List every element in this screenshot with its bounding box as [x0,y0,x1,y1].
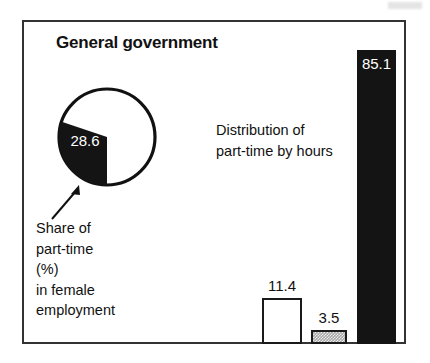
pie-annotation-line-3: (%) [36,259,115,280]
bar-value-label-3: 85.1 [357,55,396,72]
bar-white [262,298,302,344]
pie-slice-value-label: 28.6 [62,132,108,149]
bars-annotation-line-1: Distribution of [216,120,333,141]
annotation-arrow [44,182,92,222]
arrow-shaft [52,191,76,219]
chart-title: General government [56,33,218,53]
bars-annotation-line-2: part-time by hours [216,141,333,162]
pie-annotation-text: Share of part-time (%) in female employm… [36,218,115,321]
pie-annotation-line-4: in female [36,280,115,301]
bars-annotation-text: Distribution of part-time by hours [216,120,333,162]
bar-value-label-1: 11.4 [257,277,307,294]
pie-annotation-line-1: Share of [36,218,115,239]
pie-annotation-line-5: employment [36,300,115,321]
scan-artifact [388,2,422,9]
arrow-head [71,185,80,195]
chart-figure: General government 28.6 Share of part-ti… [0,0,430,363]
bar-black [357,50,396,344]
bar-value-label-2: 3.5 [305,309,353,326]
pie-annotation-line-2: part-time [36,239,115,260]
bar-gray-hatched [311,330,347,344]
